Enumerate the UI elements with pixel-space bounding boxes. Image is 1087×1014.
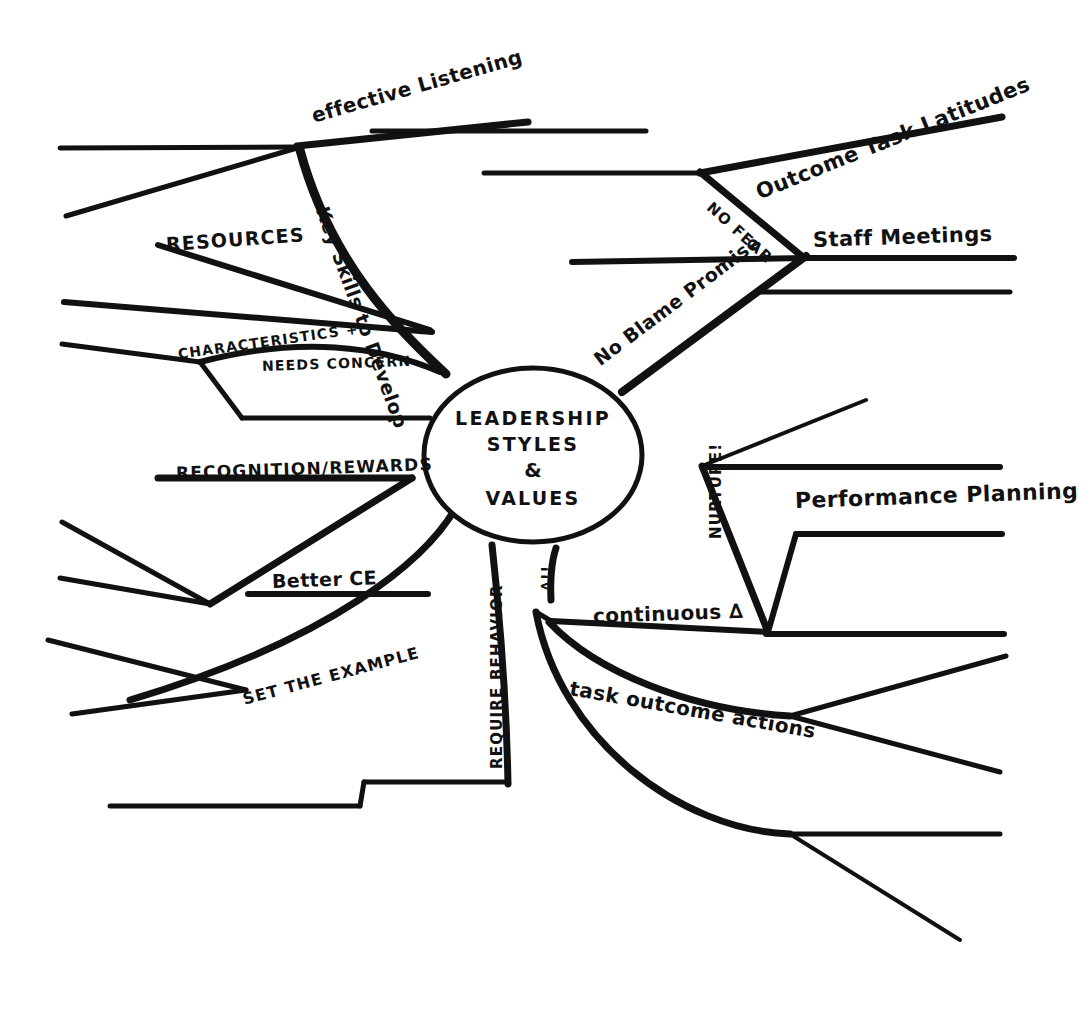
branch-line-needs-concern-tail (200, 362, 242, 418)
central-node-line-2: Styles (418, 431, 648, 457)
branch-line-set-the-example-sub1 (48, 640, 246, 690)
branch-line-lower-sweep-sub2 (790, 834, 960, 940)
branch-line-performance-planning (768, 534, 796, 632)
central-node-line-3: & (418, 457, 648, 485)
branch-line-require-behavior-sub2 (360, 782, 364, 806)
mind-map-canvas: Leadership Styles & Values effective Lis… (0, 0, 1087, 1014)
branch-label-require-behavior: Require Behavior (488, 584, 506, 769)
branch-label-nurture: Nurture! (707, 443, 725, 539)
branch-label-delta-emphasis: ∆!! (538, 565, 554, 591)
branch-line-resources (158, 245, 430, 330)
central-node-text: Leadership Styles & Values (418, 405, 648, 511)
branch-line-effective-listening-sub2 (66, 148, 297, 216)
branch-line-effective-listening-spine (297, 122, 528, 146)
central-node-line-4: Values (418, 485, 648, 511)
central-node-line-1: Leadership (418, 405, 648, 431)
branch-line-task-outcome-sub1 (790, 656, 1006, 716)
branch-label-better-ce: Better CE (272, 566, 378, 592)
branch-line-effective-listening-tail (60, 147, 296, 148)
branch-line-nurture-upper (702, 400, 866, 466)
branch-line-task-outcome-sub2 (790, 716, 1000, 772)
